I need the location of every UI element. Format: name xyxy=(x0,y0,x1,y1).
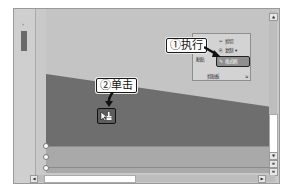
cut-label: 剪切 xyxy=(225,38,233,44)
footer-band-shape[interactable] xyxy=(46,146,272,173)
dark-trapezoid-shape[interactable] xyxy=(46,9,272,155)
step2-arrow-icon xyxy=(104,92,118,108)
brush-cursor-icon xyxy=(100,111,113,122)
step1-arrow-icon xyxy=(204,45,222,59)
previous-slide-button[interactable]: ≡ xyxy=(269,160,278,168)
resize-handle[interactable] xyxy=(43,154,49,160)
scissors-icon: ✂ xyxy=(219,39,223,44)
clipboard-group-label: 剪贴板 xyxy=(207,73,219,79)
chevron-down-icon[interactable]: ▾ xyxy=(235,48,237,53)
format-painter-cursor xyxy=(97,108,116,124)
horizontal-scroll-thumb[interactable] xyxy=(44,175,136,183)
step1-callout: ①执行 xyxy=(166,38,207,53)
panel-collapse-icon[interactable]: › xyxy=(22,21,24,27)
panel-tab-label[interactable] xyxy=(21,31,27,51)
cut-button[interactable]: ✂ 剪切 xyxy=(219,38,233,44)
resize-handle[interactable] xyxy=(43,165,49,171)
slide-thumbnail-panel[interactable]: › xyxy=(14,9,36,183)
format-painter-icon: ✎ xyxy=(219,59,223,64)
dialog-launcher-icon[interactable]: ⇲ xyxy=(245,74,248,79)
copy-label: 复制 xyxy=(225,47,233,53)
vertical-scroll-thumb[interactable] xyxy=(269,114,278,153)
step2-callout: ②单击 xyxy=(96,78,137,93)
divider-line xyxy=(46,167,272,168)
paste-button[interactable]: 粘贴 xyxy=(196,56,204,62)
scroll-up-button[interactable]: ▲ xyxy=(269,13,278,21)
scroll-down-button[interactable]: ▼ xyxy=(269,152,278,160)
horizontal-scrollbar[interactable]: ◀ ▶ xyxy=(38,175,275,182)
scroll-right-button[interactable]: ▶ xyxy=(258,175,266,183)
format-painter-label: 格式刷 xyxy=(225,58,237,64)
scroll-left-button[interactable]: ◀ xyxy=(30,175,38,183)
resize-handle[interactable] xyxy=(43,143,49,149)
vertical-scrollbar[interactable]: ▲ ▼ ≡ ≡ xyxy=(269,11,277,171)
